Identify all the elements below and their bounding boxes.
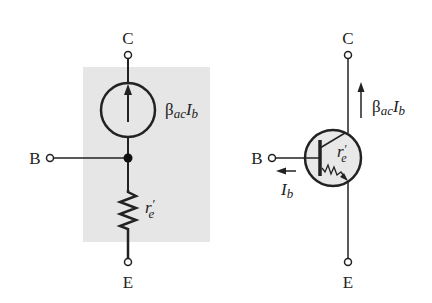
- emitter-terminal: [345, 259, 352, 266]
- collector-label: C: [122, 29, 133, 48]
- base-label: B: [251, 149, 262, 168]
- left-equivalent-circuit: C βacIb B r′e E: [29, 29, 210, 292]
- collector-terminal: [125, 52, 132, 59]
- right-transistor-symbol: C βacIb r′e B Ib E: [251, 29, 405, 292]
- emitter-terminal: [125, 259, 132, 266]
- base-current-label: Ib: [280, 180, 294, 201]
- junction-dot: [124, 154, 133, 163]
- arrow-left-icon: [276, 168, 286, 175]
- emitter-label: E: [343, 273, 353, 292]
- base-terminal: [47, 155, 54, 162]
- collector-terminal: [345, 52, 352, 59]
- base-label: B: [29, 149, 40, 168]
- collector-current-label: βacIb: [372, 97, 406, 118]
- bjt-r-parameter-diagram: C βacIb B r′e E C βacIb r′e: [0, 0, 432, 303]
- emitter-label: E: [123, 273, 133, 292]
- arrow-up-icon: [358, 82, 365, 92]
- collector-label: C: [342, 29, 353, 48]
- base-terminal: [269, 155, 276, 162]
